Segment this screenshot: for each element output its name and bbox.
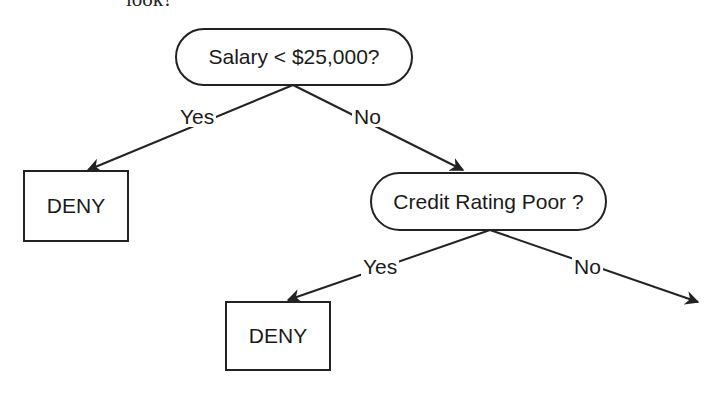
edge-label-root-no: No	[352, 106, 383, 127]
decision-node-credit: Credit Rating Poor ?	[370, 172, 607, 231]
edge-label-credit-yes: Yes	[361, 256, 399, 277]
edge-label-credit-no: No	[572, 256, 603, 277]
decision-node-salary: Salary < $25,000?	[175, 28, 413, 86]
decision-salary-label: Salary < $25,000?	[208, 45, 379, 69]
outcome-deny-1: DENY	[23, 170, 129, 242]
edge-label-root-yes: Yes	[178, 106, 216, 127]
outcome-deny-2-label: DENY	[249, 324, 307, 348]
outcome-deny-2: DENY	[225, 301, 331, 371]
outcome-deny-1-label: DENY	[47, 194, 105, 218]
decision-credit-label: Credit Rating Poor ?	[393, 190, 583, 214]
